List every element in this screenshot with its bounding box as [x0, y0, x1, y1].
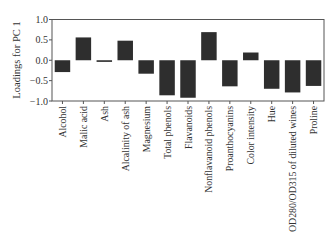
- bars: [55, 32, 322, 98]
- x-tick-label: Ash: [99, 106, 110, 122]
- x-tick-label: Flavanoids: [183, 106, 194, 149]
- bar-nonflavanoid-phenols: [201, 32, 216, 60]
- y-axis: 1.00.50.0−0.5−1.0: [30, 14, 52, 107]
- x-tick-label: Proline: [308, 105, 319, 134]
- bar-proline: [306, 60, 321, 86]
- y-tick-label: 0.5: [36, 34, 49, 45]
- x-tick-label: Total phenols: [162, 106, 173, 159]
- bar-flavanoids: [180, 60, 195, 97]
- x-tick-label: Magnesium: [141, 106, 152, 153]
- bar-od280-od315-of-diluted-wines: [285, 60, 300, 92]
- x-tick-label: Hue: [266, 105, 277, 122]
- x-tick-label: Proanthocyanins: [224, 106, 235, 171]
- bar-color-intensity: [243, 53, 258, 61]
- bar-alcalinity-of-ash: [117, 41, 132, 61]
- x-tick-label: Alcalinity of ash: [120, 106, 131, 171]
- y-tick-label: 0.0: [36, 55, 49, 66]
- bar-ash: [97, 60, 112, 62]
- x-axis: AlcoholMalic acidAshAlcalinity of ashMag…: [57, 101, 319, 232]
- bar-hue: [264, 60, 279, 89]
- x-tick-label: Alcohol: [57, 106, 68, 138]
- bar-magnesium: [138, 60, 153, 73]
- bar-alcohol: [55, 60, 70, 72]
- pc1-loadings-bar-chart: 1.00.50.0−0.5−1.0 AlcoholMalic acidAshAl…: [0, 0, 336, 252]
- x-tick-label: Malic acid: [78, 106, 89, 148]
- x-tick-label: OD280/OD315 of diluted wines: [287, 106, 298, 232]
- y-axis-title: Loadings for PC 1: [11, 21, 22, 98]
- x-tick-label: Nonflavanoid phenols: [203, 106, 214, 193]
- y-tick-label: −0.5: [30, 75, 48, 86]
- bar-proanthocyanins: [222, 60, 237, 86]
- bar-total-phenols: [159, 60, 174, 95]
- bar-malic-acid: [76, 37, 91, 60]
- x-tick-label: Color intensity: [245, 106, 256, 165]
- y-tick-label: 1.0: [36, 14, 49, 25]
- y-tick-label: −1.0: [30, 96, 48, 107]
